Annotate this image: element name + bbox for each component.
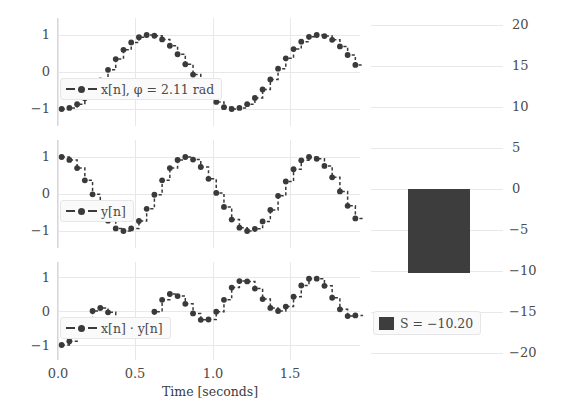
legend-line-marker-icon [66,322,96,334]
ytick-label-bar-m20: −20 [509,345,553,360]
bar-sum[interactable] [408,189,470,273]
ytick-label-bar-15: 15 [512,58,556,73]
ytick-label-bar-m15: −15 [509,304,553,319]
gridline-10 [371,107,503,108]
ytick-label-x-m1: −1 [14,101,50,116]
legend-y-signal[interactable]: y[n] [60,200,134,222]
ytick-label-bar-5: 5 [512,140,556,155]
ytick-label-bar-10: 10 [512,99,556,114]
legend-label: x[n], φ = 2.11 rad [101,82,214,97]
ytick-label-bar-0: 0 [512,181,556,196]
ytick-label-p-0: 0 [18,304,50,319]
legend-x-signal[interactable]: x[n], φ = 2.11 rad [60,78,222,100]
ytick-label-y-0: 0 [18,186,50,201]
legend-label: y[n] [101,204,126,219]
gridline-5 [371,148,503,149]
series-x-signal [57,18,360,126]
ytick-label-x-0: 0 [18,64,50,79]
xtick-label-05: 0.5 [117,366,153,381]
x-axis-label: Time [seconds] [130,384,290,399]
xtick-label-15: 1.5 [272,366,308,381]
ytick-label-y-1: 1 [18,149,50,164]
ytick-label-bar-m10: −10 [509,263,553,278]
xtick-label-00: 0.0 [40,366,76,381]
ytick-label-bar-m5: −5 [509,222,553,237]
ytick-label-y-m1: −1 [14,223,50,238]
legend-line-marker-icon [66,205,96,217]
ytick-label-p-m1: −1 [14,338,50,353]
ytick-label-x-1: 1 [18,27,50,42]
legend-color-swatch-icon [379,317,394,330]
subplot-x-signal: x[n], φ = 2.11 rad [57,18,360,126]
legend-label: x[n] · y[n] [101,321,163,336]
gridline-20 [371,25,503,26]
subplot-sum-bar: S = −10.20 [371,18,503,373]
xtick-label-10: 1.0 [195,366,231,381]
gridline-m20 [371,353,503,354]
legend-sum-bar[interactable]: S = −10.20 [373,311,481,335]
legend-product-signal[interactable]: x[n] · y[n] [60,317,171,339]
subplot-product-signal: x[n] · y[n] [57,262,360,360]
legend-line-marker-icon [66,83,96,95]
gridline-15 [371,66,503,67]
subplot-y-signal: y[n] [57,140,360,248]
series-y-signal [57,140,360,248]
series-product-signal [57,262,360,360]
ytick-label-bar-20: 20 [512,17,556,32]
legend-label: S = −10.20 [400,316,473,331]
ytick-label-p-1: 1 [18,270,50,285]
figure-canvas: x[n], φ = 2.11 rad 1 0 −1 y[n] 1 0 −1 [0,0,566,415]
